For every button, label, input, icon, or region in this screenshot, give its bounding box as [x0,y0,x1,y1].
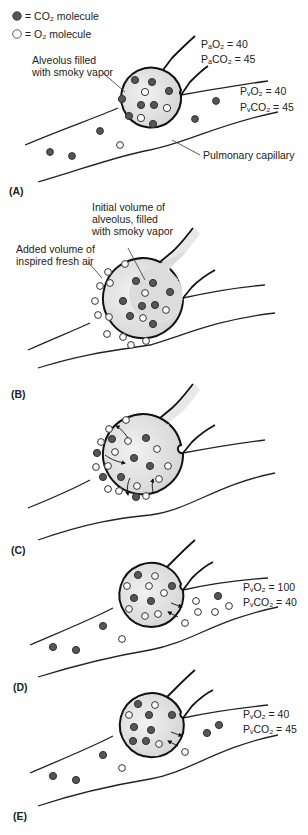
pv-o2-label: PᵥO₂ = 40 [240,85,286,97]
panel-a: Alveolus filled with smoky vapor PₐO₂ = … [9,36,295,197]
alveolus [119,563,183,627]
capillary-label: Pulmonary capillary [203,149,295,161]
airway-duct-lower [183,562,213,590]
panel-e-label: (E) [13,810,27,822]
pa-co2-label: PₐCO₂ = 45 [201,53,256,65]
pa-o2-label: PₐO₂ = 40 [201,38,248,50]
pv-co2-label: PᵥCO₂ = 45 [240,101,294,113]
added-volume-label-line1: Added volume of [16,243,95,255]
legend-co2-label: = CO₂ molecule [25,10,99,22]
alveolus-label-line2: with smoky vapor [31,66,114,78]
airway-duct [167,670,195,697]
panel-e: PᵥO₂ = 40 PᵥCO₂ = 45 (E) [13,670,297,822]
capillary-upper-wall-right [183,285,265,298]
o2-molecule-icon [13,30,22,39]
airway-duct-lower [183,270,215,298]
pv-o2-label: PᵥO₂ = 40 [243,708,289,720]
capillary-upper-wall [25,108,118,145]
alveolar-gas-exchange-diagram: = CO₂ molecule = O₂ molecule [0,0,308,835]
pv-co2-label: PᵥCO₂ = 40 [243,596,297,608]
panel-c-label: (C) [11,544,26,556]
alveolus-label-line1: Alveolus filled [32,54,96,66]
legend: = CO₂ molecule = O₂ molecule [13,10,99,40]
capillary-upper-wall-right [183,440,265,453]
panel-b: Initial volume of alveolus, filled with … [11,201,275,400]
pv-co2-label: PᵥCO₂ = 45 [243,723,297,735]
initial-volume-label-line1: Initial volume of [92,201,165,213]
airway-duct-fill [160,384,200,426]
pv-o2-label: PᵥO₂ = 100 [243,581,295,593]
airway-duct [163,36,195,70]
panel-d-label: (D) [13,681,28,693]
co2-molecule-icon [13,12,22,21]
added-volume-label-line2: inspired fresh air [16,255,94,267]
airway-duct-lower [183,690,213,718]
airway-duct [167,540,195,567]
capillary-upper-wall [28,323,90,350]
initial-volume-label-line3: with smoky vapor [91,225,174,237]
panel-a-label: (A) [9,185,24,197]
capillary-leader-line [172,140,200,155]
panel-b-label: (B) [11,388,26,400]
panel-c: (C) [11,384,275,556]
initial-volume-label-line2: alveolus, filled [92,213,158,225]
panel-d: PᵥO₂ = 100 PᵥCO₂ = 40 (D) [13,540,297,693]
legend-o2-label: = O₂ molecule [25,28,91,40]
capillary-upper-wall [28,480,90,508]
